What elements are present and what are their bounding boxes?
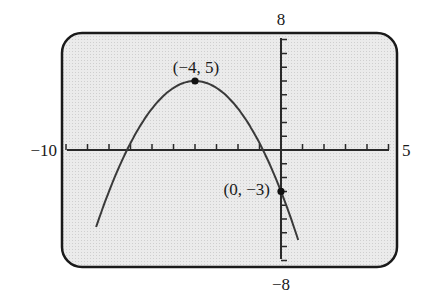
xmax-label: 5 — [402, 141, 411, 160]
graphing-calculator-plot: (−4, 5) (0, −3) 8 −8 −10 5 — [0, 0, 424, 301]
vertex-label: (−4, 5) — [173, 58, 219, 77]
ymax-label: 8 — [277, 10, 286, 29]
ymin-label: −8 — [272, 275, 290, 294]
y-intercept-label: (0, −3) — [224, 180, 270, 199]
xmin-label: −10 — [30, 141, 57, 160]
vertex-point — [191, 77, 198, 84]
y-intercept-point — [277, 188, 284, 195]
